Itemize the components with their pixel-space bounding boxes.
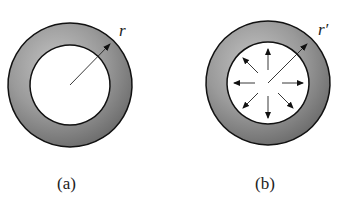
radius-label-b: r′: [318, 20, 329, 39]
caption-b: (b): [255, 174, 275, 193]
radius-label-a: r: [119, 21, 126, 40]
caption-a: (a): [57, 174, 76, 193]
figure-a: r (a): [8, 21, 132, 193]
figure-b: r′ (b): [206, 20, 330, 193]
diagram-canvas: r (a) r′ (b): [0, 0, 344, 208]
radius-arrow-icon: [268, 44, 307, 83]
pressure-arrows-icon: [234, 49, 303, 118]
